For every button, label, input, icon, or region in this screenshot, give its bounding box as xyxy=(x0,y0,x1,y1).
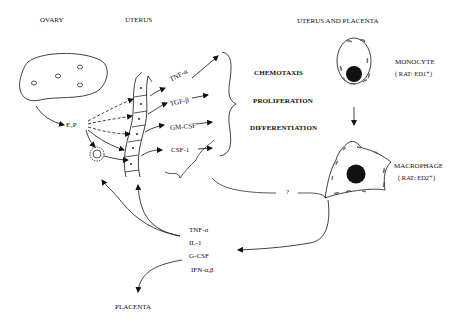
product-il-1: IL-1 xyxy=(189,239,201,247)
effects-brace xyxy=(220,52,236,156)
macrophage-cell xyxy=(325,141,391,198)
ovary-shape xyxy=(20,53,108,100)
gland-ring xyxy=(90,147,104,161)
ovary-to-e2p-arrow xyxy=(36,106,64,125)
monocyte-marker: ( RAT: ED1⁺) xyxy=(395,70,432,78)
diagram-canvas xyxy=(0,0,462,321)
product-ifn-alpha-beta: IFN-α,β xyxy=(191,266,214,274)
effect-chemotaxis: CHEMOTAXIS xyxy=(254,69,303,77)
product-g-csf: G-CSF xyxy=(189,252,209,260)
effect-differentiation: DIFFERENTIATION xyxy=(250,124,317,132)
hormone-e2p: E₂P xyxy=(66,121,77,129)
monocyte-label: MONOCYTE xyxy=(395,58,435,66)
region-label-ovary: OVARY xyxy=(40,16,64,24)
cytokine-csf-1: CSF-1 xyxy=(171,146,189,154)
macrophage-marker: ( RAT: ED2⁺) xyxy=(398,174,435,182)
unknown-link-mark: ? xyxy=(286,188,289,196)
region-label-placenta: PLACENTA xyxy=(115,303,151,311)
region-label-uterus-placenta: UTERUS AND PLACENTA xyxy=(297,17,379,25)
monocyte-cell xyxy=(337,38,371,84)
macrophage-label: MACROPHAGE xyxy=(394,162,443,170)
region-label-uterus: UTERUS xyxy=(125,16,152,24)
e2p-dashed-arrows xyxy=(88,99,133,134)
macrophage-products-arrow xyxy=(238,200,329,250)
uterine-epithelium xyxy=(124,72,152,177)
effect-proliferation: PROLIFERATION xyxy=(253,97,313,105)
product-tnf-alpha: TNF-α xyxy=(189,226,208,234)
